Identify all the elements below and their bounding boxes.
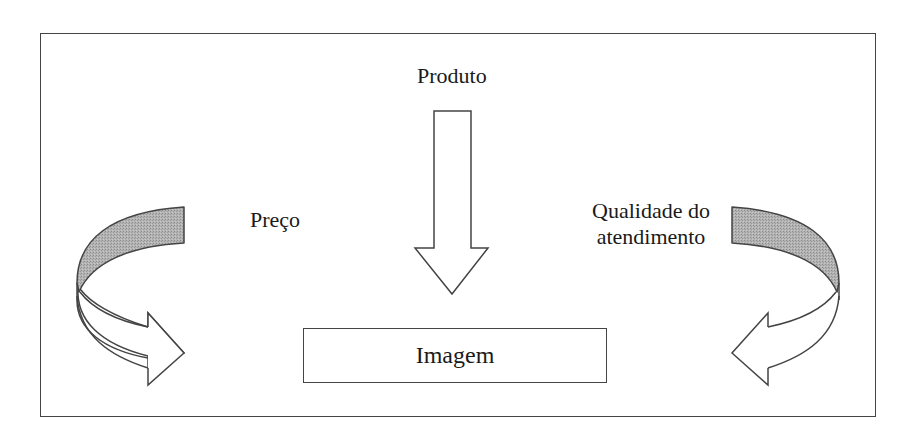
qualidade-atendimento-label: Qualidade do atendimento <box>583 198 719 250</box>
imagem-label: Imagem <box>416 342 495 369</box>
imagem-node: Imagem <box>303 328 607 383</box>
produto-label: Produto <box>417 63 487 89</box>
produto-down-arrow-icon <box>415 111 488 294</box>
qualidade-curved-arrow-icon <box>732 207 839 385</box>
preco-curved-arrow-icon <box>77 207 184 385</box>
qualidade-label-line2: atendimento <box>583 224 719 250</box>
preco-label: Preço <box>250 207 300 233</box>
qualidade-label-line1: Qualidade do <box>583 198 719 224</box>
